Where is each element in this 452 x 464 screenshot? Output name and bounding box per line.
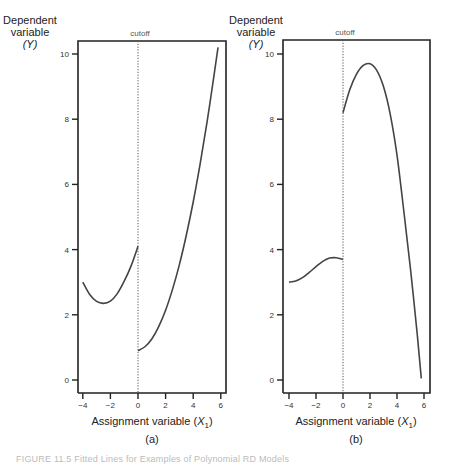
panel-label: (b): [349, 433, 362, 445]
x-tick-label: −2: [311, 401, 321, 410]
x-tick-label: 2: [163, 401, 168, 410]
plot-frame: [78, 41, 226, 393]
panel-b: 0246810−4−20246cutoffDependentvariable(Y…: [229, 14, 430, 445]
y-tick-label: 4: [270, 246, 275, 255]
y-tick-label: 6: [270, 180, 275, 189]
fitted-line-below-cutoff: [289, 258, 343, 283]
y-tick-label: 0: [270, 376, 275, 385]
y-tick-label: 10: [265, 50, 274, 59]
y-axis-label: Dependentvariable(Y): [3, 14, 57, 50]
y-tick-label: 4: [65, 246, 70, 255]
y-tick-label: 8: [270, 115, 275, 124]
x-axis-label: Assignment variable (X1): [91, 415, 212, 430]
y-tick-label: 8: [65, 115, 70, 124]
x-tick-label: −4: [284, 401, 294, 410]
y-tick-label: 2: [65, 311, 70, 320]
x-tick-label: −2: [106, 401, 116, 410]
y-axis-label: Dependentvariable(Y): [229, 14, 283, 50]
x-tick-label: 4: [191, 401, 196, 410]
x-tick-label: 6: [422, 401, 427, 410]
x-tick-label: 2: [368, 401, 373, 410]
x-tick-label: 0: [341, 401, 346, 410]
fitted-line-below-cutoff: [83, 246, 138, 303]
plot-frame: [283, 40, 430, 393]
panel-label: (a): [145, 433, 158, 445]
cutoff-label: cutoff: [130, 29, 150, 38]
y-tick-label: 0: [65, 376, 70, 385]
x-tick-label: 4: [395, 401, 400, 410]
fitted-line-above-cutoff: [343, 63, 421, 378]
fitted-line-above-cutoff: [138, 47, 218, 350]
figure-caption: FIGURE 11.5 Fitted Lines for Examples of…: [16, 454, 289, 464]
panel-a: 0246810−4−20246cutoffDependentvariable(Y…: [3, 14, 226, 445]
y-tick-label: 10: [60, 50, 69, 59]
x-tick-label: −4: [78, 401, 88, 410]
x-tick-label: 0: [136, 401, 141, 410]
x-axis-label: Assignment variable (X1): [295, 415, 416, 430]
y-tick-label: 2: [270, 311, 275, 320]
y-tick-label: 6: [65, 180, 70, 189]
x-tick-label: 6: [219, 401, 224, 410]
cutoff-label: cutoff: [335, 28, 355, 37]
